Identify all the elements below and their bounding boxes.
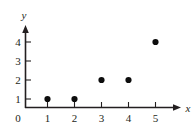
y-axis-label: y xyxy=(21,9,27,21)
x-tick-label-3: 3 xyxy=(99,112,105,124)
data-point xyxy=(125,77,131,83)
data-point xyxy=(71,96,77,102)
origin-label: 0 xyxy=(15,112,21,124)
x-tick-label-5: 5 xyxy=(153,112,159,124)
plot-canvas: 1 2 3 4 0 1 2 3 4 5 y x xyxy=(0,0,195,127)
data-point xyxy=(44,96,50,102)
y-tick-label-4: 4 xyxy=(15,36,21,48)
x-tick-label-2: 2 xyxy=(72,112,78,124)
scatter-plot-figure: 1 2 3 4 0 1 2 3 4 5 y x xyxy=(0,0,195,127)
data-point xyxy=(152,39,158,45)
x-axis-arrow-icon xyxy=(173,104,181,110)
y-tick-label-1: 1 xyxy=(15,93,21,105)
data-point xyxy=(98,77,104,83)
y-tick-label-3: 3 xyxy=(15,55,21,67)
y-tick-label-2: 2 xyxy=(15,74,21,86)
x-axis-label: x xyxy=(185,102,191,114)
x-tick-label-1: 1 xyxy=(45,112,51,124)
y-axis-arrow-icon xyxy=(22,25,29,33)
x-tick-label-4: 4 xyxy=(126,112,132,124)
